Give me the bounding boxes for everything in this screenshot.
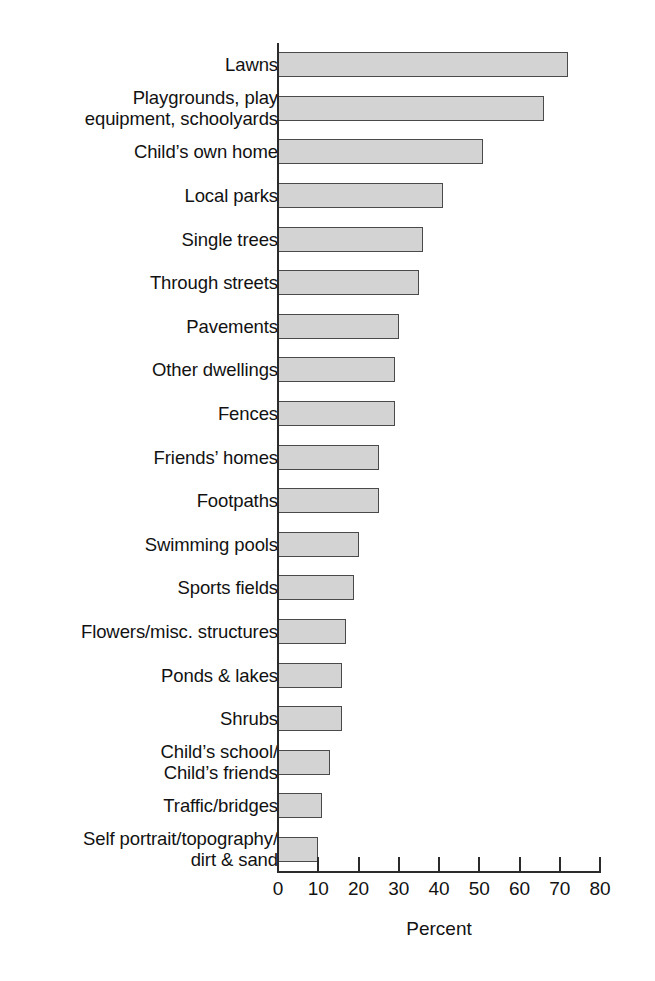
category-label: Footpaths <box>10 490 278 511</box>
bar-track <box>278 479 655 523</box>
bar <box>278 793 322 818</box>
bar-track <box>278 87 655 131</box>
category-label: Pavements <box>10 316 278 337</box>
bar <box>278 575 354 600</box>
x-axis-tick <box>317 857 319 872</box>
bar-track <box>278 697 655 741</box>
bar <box>278 227 423 252</box>
x-axis-tick-label: 60 <box>500 878 540 900</box>
x-axis-title: Percent <box>277 918 601 940</box>
bar <box>278 357 395 382</box>
bar <box>278 96 544 121</box>
bar-row: Traffic/bridges <box>0 784 655 828</box>
bar-track <box>278 348 655 392</box>
category-label: Fences <box>10 403 278 424</box>
bar-row: Ponds & lakes <box>0 653 655 697</box>
bar-row: Child’s school/ Child’s friends <box>0 741 655 785</box>
bar <box>278 314 399 339</box>
bar-rows: LawnsPlaygrounds, play equipment, school… <box>0 43 655 871</box>
x-axis-tick <box>478 857 480 872</box>
category-label: Playgrounds, play equipment, schoolyards <box>10 87 278 129</box>
bar-row: Local parks <box>0 174 655 218</box>
bar <box>278 401 395 426</box>
bar <box>278 270 419 295</box>
bar-row: Footpaths <box>0 479 655 523</box>
bar-track <box>278 261 655 305</box>
bar-row: Through streets <box>0 261 655 305</box>
bar-row: Friends’ homes <box>0 435 655 479</box>
bar <box>278 445 379 470</box>
x-axis-tick <box>358 857 360 872</box>
x-axis-tick-label: 80 <box>580 878 620 900</box>
x-axis-tick-label: 20 <box>339 878 379 900</box>
category-label: Single trees <box>10 229 278 250</box>
category-label: Friends’ homes <box>10 447 278 468</box>
bar-row: Swimming pools <box>0 523 655 567</box>
bar-row: Flowers/misc. structures <box>0 610 655 654</box>
bar-track <box>278 741 655 785</box>
category-label: Child’s school/ Child’s friends <box>10 741 278 783</box>
category-label: Other dwellings <box>10 359 278 380</box>
bar-row: Self portrait/topography/ dirt & sand <box>0 828 655 872</box>
bar-track <box>278 43 655 87</box>
x-axis-tick <box>559 857 561 872</box>
bar-track <box>278 653 655 697</box>
bar-chart: LawnsPlaygrounds, play equipment, school… <box>0 0 655 981</box>
x-axis-tick-label: 10 <box>298 878 338 900</box>
bar-row: Playgrounds, play equipment, schoolyards <box>0 87 655 131</box>
bar-row: Pavements <box>0 305 655 349</box>
bar-track <box>278 610 655 654</box>
category-label: Shrubs <box>10 708 278 729</box>
bar <box>278 488 379 513</box>
category-label: Traffic/bridges <box>10 795 278 816</box>
category-label: Swimming pools <box>10 534 278 555</box>
bar-row: Sports fields <box>0 566 655 610</box>
x-axis-tick-label: 40 <box>419 878 459 900</box>
bar-track <box>278 392 655 436</box>
bar <box>278 183 443 208</box>
plot-area: LawnsPlaygrounds, play equipment, school… <box>0 0 655 981</box>
bar <box>278 750 330 775</box>
bar-row: Single trees <box>0 217 655 261</box>
category-label: Child’s own home <box>10 141 278 162</box>
category-label: Flowers/misc. structures <box>10 621 278 642</box>
bar <box>278 139 483 164</box>
bar <box>278 663 342 688</box>
bar-track <box>278 305 655 349</box>
bar-row: Other dwellings <box>0 348 655 392</box>
bar <box>278 706 342 731</box>
bar-track <box>278 217 655 261</box>
bar-track <box>278 784 655 828</box>
x-axis-tick-label: 70 <box>540 878 580 900</box>
bar-row: Fences <box>0 392 655 436</box>
bar-track <box>278 174 655 218</box>
bar-track <box>278 566 655 610</box>
category-label: Lawns <box>10 54 278 75</box>
x-axis-tick <box>438 857 440 872</box>
bar-track <box>278 435 655 479</box>
bar <box>278 619 346 644</box>
y-axis-line <box>277 43 279 872</box>
category-label: Through streets <box>10 272 278 293</box>
bar-row: Lawns <box>0 43 655 87</box>
x-axis-tick-label: 50 <box>459 878 499 900</box>
x-axis-tick <box>599 857 601 872</box>
category-label: Sports fields <box>10 577 278 598</box>
category-label: Self portrait/topography/ dirt & sand <box>10 828 278 870</box>
bar <box>278 532 359 557</box>
bar-track <box>278 130 655 174</box>
bar-track <box>278 523 655 567</box>
bar-row: Shrubs <box>0 697 655 741</box>
x-axis-tick <box>519 857 521 872</box>
category-label: Local parks <box>10 185 278 206</box>
x-axis-tick-label: 0 <box>258 878 298 900</box>
bar-row: Child’s own home <box>0 130 655 174</box>
x-axis-tick <box>398 857 400 872</box>
category-label: Ponds & lakes <box>10 665 278 686</box>
bar <box>278 837 318 862</box>
x-axis-tick-label: 30 <box>379 878 419 900</box>
bar <box>278 52 568 77</box>
